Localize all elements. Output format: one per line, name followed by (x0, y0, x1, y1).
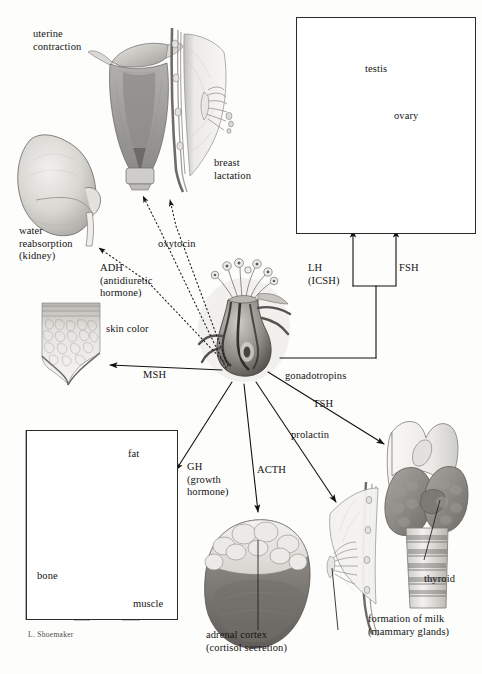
pituitary-gland-illustration (198, 259, 290, 382)
label-adh: ADH (antidiuretic hormone) (100, 262, 153, 300)
gonads-inset-frame (296, 17, 476, 234)
fat-bone-muscle-inset-frame (26, 430, 178, 620)
label-testis: testis (365, 63, 387, 76)
hormone-target-organ-diagram: uterine contraction breast lactation wat… (0, 0, 482, 674)
label-prolactin: prolactin (291, 429, 329, 442)
label-formation-of-milk: formation of milk (mammary glands) (368, 613, 449, 638)
label-thyroid: thyroid (424, 573, 455, 586)
label-adrenal-cortex: adrenal cortex (cortisol secretion) (206, 629, 287, 654)
label-breast-lactation: breast lactation (214, 157, 251, 182)
label-bone: bone (37, 570, 58, 583)
label-fat: fat (128, 448, 139, 461)
label-acth: ACTH (257, 464, 286, 477)
label-gh: GH (growth hormone) (187, 461, 229, 499)
label-gonadotropins: gonadotropins (285, 370, 346, 383)
label-lh: LH (ICSH) (308, 262, 340, 287)
label-water-reabsorption: water reabsorption (kidney) (19, 225, 73, 263)
label-muscle: muscle (133, 598, 163, 611)
skin-section-illustration (42, 303, 100, 385)
label-fsh: FSH (399, 262, 419, 275)
label-msh: MSH (143, 369, 166, 382)
label-ovary: ovary (394, 110, 418, 123)
label-oxytocin: oxytocin (158, 238, 196, 251)
label-skin-color: skin color (106, 323, 149, 336)
label-tsh: TSH (313, 398, 333, 411)
label-uterine-contraction: uterine contraction (33, 28, 81, 53)
uterus-illustration (88, 43, 183, 190)
artist-signature: L. Shoemaker (28, 629, 74, 642)
